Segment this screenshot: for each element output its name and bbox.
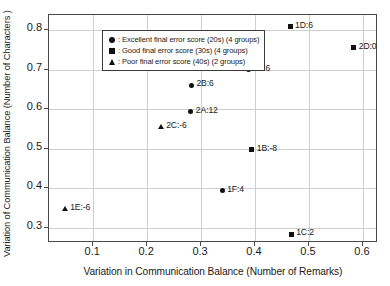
- legend-item[interactable]: : Good final error score (30s) (4 groups…: [107, 45, 259, 56]
- circle-marker-icon: [107, 34, 118, 45]
- data-point-label: 1F:4: [227, 184, 244, 194]
- y-tick-mark: [44, 227, 48, 228]
- legend-item[interactable]: : Poor final error score (40s) (2 groups…: [107, 56, 259, 67]
- plot-area: 1D:62D:01A:62B:62A:122C:-61B:-81F:41E:-6…: [48, 14, 377, 242]
- data-point-label: 1C:2: [296, 227, 314, 237]
- x-tick-label: 0.4: [234, 245, 274, 257]
- y-tick-label: 0.8: [8, 21, 42, 33]
- y-tick-label: 0.7: [8, 61, 42, 73]
- data-point-label: 2B:6: [196, 78, 213, 88]
- y-tick-mark: [44, 69, 48, 70]
- data-point-label: 2D:0: [359, 41, 377, 51]
- x-tick-label: 0.1: [72, 245, 112, 257]
- y-tick-mark: [44, 29, 48, 30]
- grid-line-horizontal: [49, 149, 376, 150]
- data-point-label: 1B:-8: [257, 143, 277, 153]
- data-point-label: 2A:12: [196, 105, 218, 115]
- triangle-marker-icon: [62, 206, 68, 211]
- legend-item[interactable]: : Excellent final error score (20s) (4 g…: [107, 34, 259, 45]
- circle-marker-icon: [189, 83, 194, 88]
- circle-marker-icon: [220, 188, 225, 193]
- legend-item-label: : Excellent final error score (20s) (4 g…: [118, 35, 259, 44]
- legend-item-label: : Poor final error score (40s) (2 groups…: [118, 57, 245, 66]
- circle-marker-icon: [188, 109, 193, 114]
- y-tick-label: 0.3: [8, 219, 42, 231]
- legend: : Excellent final error score (20s) (4 g…: [102, 30, 265, 71]
- x-tick-label: 0.3: [180, 245, 220, 257]
- square-marker-icon: [107, 45, 118, 56]
- square-marker-icon: [289, 232, 294, 237]
- x-axis-title: Variation in Communication Balance (Numb…: [48, 266, 378, 277]
- grid-line-horizontal: [49, 188, 376, 189]
- y-tick-mark: [44, 187, 48, 188]
- legend-item-label: : Good final error score (30s) (4 groups…: [118, 46, 248, 55]
- data-point-label: 1D:6: [295, 20, 313, 30]
- y-tick-mark: [44, 148, 48, 149]
- data-point-label: 2C:-6: [166, 120, 187, 130]
- x-tick-label: 0.2: [126, 245, 166, 257]
- scatter-chart: Variation of Communication Balance (Numb…: [0, 0, 390, 286]
- x-tick-label: 0.6: [342, 245, 382, 257]
- grid-line-vertical: [309, 15, 310, 241]
- x-tick-label: 0.5: [288, 245, 328, 257]
- y-tick-mark: [44, 108, 48, 109]
- triangle-marker-icon: [158, 124, 164, 129]
- square-marker-icon: [249, 147, 254, 152]
- square-marker-icon: [288, 24, 293, 29]
- y-tick-label: 0.6: [8, 100, 42, 112]
- grid-line-horizontal: [49, 228, 376, 229]
- y-tick-label: 0.4: [8, 179, 42, 191]
- grid-line-vertical: [93, 15, 94, 241]
- triangle-marker-icon: [107, 56, 118, 67]
- square-marker-icon: [351, 45, 356, 50]
- y-tick-label: 0.5: [8, 140, 42, 152]
- data-point-label: 1E:-6: [70, 202, 90, 212]
